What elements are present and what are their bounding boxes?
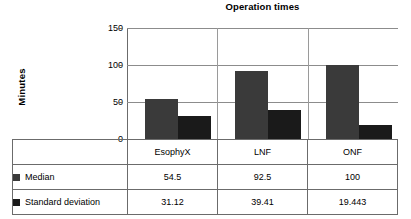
bar-stddev-lnf [268, 110, 301, 139]
chart-title: Operation times [127, 1, 398, 13]
y-tick-mark-50 [119, 102, 123, 103]
bar-stddev-esophyx [178, 116, 211, 139]
table-row: Standard deviation 31.12 39.41 19.443 [13, 190, 398, 215]
bar-median-lnf [235, 71, 268, 140]
table-header-onf: ONF [308, 140, 398, 165]
cell-median-onf: 100 [308, 165, 398, 190]
cell-stddev-lnf: 39.41 [218, 190, 308, 215]
table-row: Median 54.5 92.5 100 [13, 165, 398, 190]
legend-label-stddev: Standard deviation [25, 197, 100, 207]
y-tick-mark-100 [119, 65, 123, 66]
cell-stddev-onf: 19.443 [308, 190, 398, 215]
y-axis-ticks: 150 100 50 0 [90, 28, 123, 139]
legend-item-median: Median [13, 165, 128, 190]
bar-median-esophyx [145, 99, 178, 139]
gridline-150 [127, 28, 398, 29]
legend-swatch-median-icon [13, 174, 20, 181]
table-row-headers: EsophyX LNF ONF [13, 140, 398, 165]
table-header-lnf: LNF [218, 140, 308, 165]
legend-label-median: Median [25, 172, 55, 182]
table-corner-cell [13, 140, 128, 165]
category-separator-1 [217, 28, 218, 139]
plot-area [127, 28, 398, 139]
bar-median-onf [326, 65, 359, 139]
bar-stddev-onf [359, 125, 392, 139]
legend-swatch-stddev-icon [13, 199, 20, 206]
y-tick-mark-150 [119, 28, 123, 29]
y-axis-label: Minutes [16, 68, 27, 105]
cell-stddev-esophyx: 31.12 [128, 190, 218, 215]
cell-median-lnf: 92.5 [218, 165, 308, 190]
y-axis-label-container: Minutes [14, 52, 28, 122]
chart-figure: Operation times Minutes 150 100 50 0 [0, 0, 411, 219]
y-axis-line [127, 28, 128, 139]
data-table: EsophyX LNF ONF Median 54.5 92.5 100 Sta… [12, 139, 398, 215]
legend-item-stddev: Standard deviation [13, 190, 128, 215]
cell-median-esophyx: 54.5 [128, 165, 218, 190]
category-separator-2 [308, 28, 309, 139]
table-header-esophyx: EsophyX [128, 140, 218, 165]
